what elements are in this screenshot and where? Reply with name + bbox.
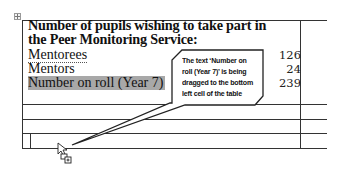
callout-line: left cell of the table — [182, 88, 254, 99]
callout-line: dragged to the bottom — [182, 77, 254, 88]
callout-line: The text ‘Number on — [182, 55, 254, 66]
callout-bubble — [0, 0, 342, 171]
callout-line: roll (Year 7)’ is being — [182, 66, 254, 77]
callout-text: The text ‘Number on roll (Year 7)’ is be… — [182, 55, 254, 99]
drag-copy-cursor-icon — [56, 142, 76, 164]
